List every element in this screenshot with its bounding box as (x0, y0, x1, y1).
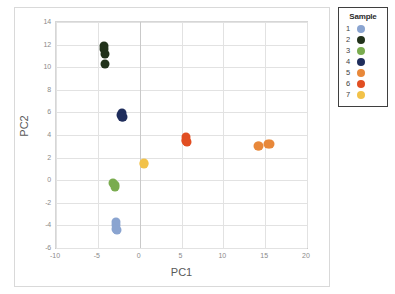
y-axis-title: PC2 (18, 96, 30, 156)
gridline-vertical (56, 22, 57, 248)
y-tick-label: 0 (47, 176, 51, 183)
data-point-sample-1 (112, 226, 121, 235)
legend-box: Sample 1234567 (338, 7, 388, 107)
y-tick-label: -4 (45, 221, 51, 228)
legend-swatch-icon (357, 36, 365, 44)
legend-swatch-icon (357, 58, 365, 66)
y-tick-label: 8 (47, 85, 51, 92)
x-axis-tick-labels: -10-505101520 (55, 252, 308, 264)
data-point-sample-2 (101, 59, 110, 68)
gridline-vertical (265, 22, 266, 248)
scatter-plot-screenshot: -6-4-202468101214 -10-505101520 PC1 PC2 … (0, 0, 395, 294)
y-tick-label: -2 (45, 198, 51, 205)
legend-title: Sample (339, 12, 387, 21)
x-tick-label: 5 (179, 252, 183, 259)
legend-swatch-icon (357, 80, 365, 88)
y-tick-label: 12 (44, 40, 51, 47)
legend-item-sample-3[interactable]: 3 (339, 45, 387, 56)
y-axis-tick-labels: -6-4-202468101214 (29, 21, 51, 249)
gridline-vertical (140, 22, 141, 248)
x-tick-label: -5 (94, 252, 100, 259)
data-point-sample-7 (140, 159, 149, 168)
y-tick-label: 14 (44, 18, 51, 25)
gridline-horizontal (56, 248, 307, 249)
data-point-sample-4 (118, 113, 127, 122)
data-point-sample-5 (265, 140, 274, 149)
legend-item-label: 5 (346, 68, 357, 77)
legend-item-list: 1234567 (339, 23, 387, 100)
legend-swatch-icon (357, 91, 365, 99)
data-point-sample-2 (100, 50, 109, 59)
legend-item-label: 1 (346, 24, 357, 33)
legend-swatch-icon (357, 25, 365, 33)
y-tick-label: -6 (45, 244, 51, 251)
data-point-sample-3 (110, 182, 119, 191)
legend-item-sample-2[interactable]: 2 (339, 34, 387, 45)
x-tick-label: 15 (260, 252, 268, 259)
gridline-vertical (98, 22, 99, 248)
x-tick-label: 0 (137, 252, 141, 259)
y-tick-label: 2 (47, 153, 51, 160)
legend-item-label: 7 (346, 90, 357, 99)
gridline-vertical (307, 22, 308, 248)
legend-item-sample-6[interactable]: 6 (339, 78, 387, 89)
legend-item-sample-4[interactable]: 4 (339, 56, 387, 67)
legend-item-label: 3 (346, 46, 357, 55)
y-tick-label: 10 (44, 63, 51, 70)
data-point-sample-6 (182, 137, 191, 146)
x-tick-label: 10 (218, 252, 226, 259)
chart-container: -6-4-202468101214 -10-505101520 PC1 PC2 (14, 7, 330, 287)
legend-item-sample-7[interactable]: 7 (339, 89, 387, 100)
plot-area (55, 21, 308, 249)
y-tick-label: 6 (47, 108, 51, 115)
legend-swatch-icon (357, 69, 365, 77)
x-tick-label: 20 (302, 252, 310, 259)
x-axis-title: PC1 (55, 266, 308, 278)
legend-item-sample-5[interactable]: 5 (339, 67, 387, 78)
gridline-vertical (223, 22, 224, 248)
legend-item-label: 2 (346, 35, 357, 44)
legend-item-sample-1[interactable]: 1 (339, 23, 387, 34)
y-tick-label: 4 (47, 131, 51, 138)
legend-item-label: 6 (346, 79, 357, 88)
legend-swatch-icon (357, 47, 365, 55)
x-tick-label: -10 (50, 252, 60, 259)
legend-item-label: 4 (346, 57, 357, 66)
